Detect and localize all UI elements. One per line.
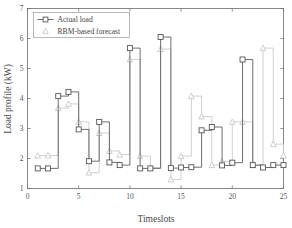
y-tick-label: 6 bbox=[20, 34, 24, 43]
data-point-marker bbox=[76, 127, 81, 132]
y-tick-label: 1 bbox=[20, 184, 24, 193]
y-tick-label: 2 bbox=[20, 154, 24, 163]
data-point-marker bbox=[86, 159, 91, 164]
data-point-marker bbox=[138, 166, 143, 171]
y-tick-label: 7 bbox=[20, 4, 24, 13]
legend-item-label: Actual load bbox=[58, 15, 93, 24]
data-point-marker bbox=[261, 165, 266, 170]
data-point-marker bbox=[281, 163, 286, 168]
data-point-marker bbox=[66, 89, 71, 94]
x-tick-label: 0 bbox=[26, 192, 30, 201]
data-point-marker bbox=[148, 166, 153, 171]
data-point-marker bbox=[179, 165, 184, 170]
data-point-marker bbox=[220, 163, 225, 168]
x-tick-label: 15 bbox=[177, 192, 185, 201]
data-point-marker bbox=[158, 35, 163, 40]
data-point-marker bbox=[35, 166, 40, 171]
load-profile-chart: 05101520251234567 Actual loadRBM-based f… bbox=[0, 0, 292, 228]
data-point-marker bbox=[97, 119, 102, 124]
y-axis-label: Load profile (kW) bbox=[3, 64, 14, 134]
x-axis-label: Timeslots bbox=[137, 214, 174, 224]
data-point-marker bbox=[168, 166, 173, 171]
data-point-marker bbox=[43, 17, 48, 22]
figure-container: 05101520251234567 Actual loadRBM-based f… bbox=[0, 0, 292, 228]
data-point-marker bbox=[189, 165, 194, 170]
data-point-marker bbox=[127, 46, 132, 51]
legend-item-label: RBM-based forecast bbox=[58, 27, 122, 36]
x-tick-label: 5 bbox=[77, 192, 81, 201]
y-tick-label: 3 bbox=[20, 124, 24, 133]
x-tick-label: 10 bbox=[126, 192, 134, 201]
x-tick-label: 20 bbox=[229, 192, 237, 201]
data-point-marker bbox=[107, 160, 112, 165]
data-point-marker bbox=[250, 163, 255, 168]
y-tick-label: 4 bbox=[20, 94, 24, 103]
x-tick-label: 25 bbox=[280, 192, 288, 201]
y-tick-label: 5 bbox=[20, 64, 24, 73]
data-point-marker bbox=[199, 128, 204, 133]
data-point-marker bbox=[240, 57, 245, 62]
data-point-marker bbox=[117, 163, 122, 168]
data-point-marker bbox=[271, 163, 276, 168]
data-point-marker bbox=[56, 94, 61, 99]
data-point-marker bbox=[45, 166, 50, 171]
data-point-marker bbox=[230, 160, 235, 165]
chart-legend: Actual loadRBM-based forecast bbox=[34, 13, 130, 38]
data-point-marker bbox=[209, 125, 214, 130]
